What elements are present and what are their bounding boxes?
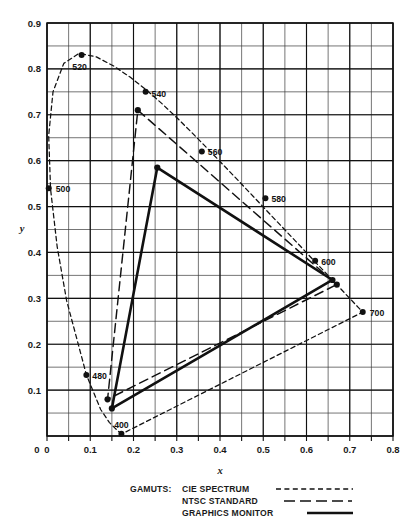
x-tick-label: 0: [44, 444, 49, 455]
wavelength-marker-700: [360, 309, 366, 315]
wavelength-label-600: 600: [321, 257, 336, 267]
x-tick-label: 0.4: [213, 444, 227, 455]
wavelength-label-480: 480: [92, 371, 107, 381]
vertex-marker: [334, 281, 340, 287]
y-tick-label: 0.1: [28, 385, 42, 396]
y-tick-label: 0.3: [28, 293, 41, 304]
y-axis-tick-labels: 00.10.20.30.40.50.60.70.80.9: [28, 18, 42, 456]
wavelength-marker-400: [118, 431, 124, 437]
vertex-marker: [329, 277, 335, 283]
legend-label-cie-spectrum: CIE SPECTRUM: [182, 484, 249, 494]
cie-chromaticity-figure: 520540560580600700500480400 00.10.20.30.…: [0, 0, 415, 530]
y-tick-label: 0.7: [28, 109, 41, 120]
wavelength-label-500: 500: [56, 184, 71, 194]
legend: GAMUTS: CIE SPECTRUM NTSC STANDARD GRAPH…: [130, 484, 353, 518]
x-tick-label: 0.2: [127, 444, 140, 455]
wavelength-marker-540: [143, 89, 149, 95]
legend-label-graphics-monitor: GRAPHICS MONITOR: [182, 508, 274, 518]
x-axis-title: x: [216, 465, 222, 476]
y-tick-label: 0: [34, 444, 39, 455]
x-tick-label: 0.5: [257, 444, 271, 455]
x-tick-label: 0.7: [343, 444, 356, 455]
x-tick-label: 0.3: [170, 444, 183, 455]
wavelength-label-540: 540: [152, 89, 167, 99]
legend-header: GAMUTS:: [130, 484, 172, 494]
wavelength-marker-520: [79, 52, 85, 58]
y-axis-title: y: [18, 223, 25, 234]
x-tick-label: 0.1: [84, 444, 98, 455]
vertex-marker: [135, 107, 141, 113]
y-tick-label: 0.5: [28, 201, 42, 212]
vertex-marker: [109, 405, 115, 411]
x-tick-label: 0.8: [386, 444, 399, 455]
wavelength-marker-560: [199, 148, 205, 154]
y-tick-label: 0.8: [28, 63, 41, 74]
wavelength-label-580: 580: [271, 194, 286, 204]
wavelength-marker-580: [262, 195, 268, 201]
y-tick-label: 0.6: [28, 155, 41, 166]
legend-label-ntsc-standard: NTSC STANDARD: [182, 496, 258, 506]
wavelength-label-520: 520: [72, 62, 87, 72]
y-tick-label: 0.2: [28, 339, 41, 350]
wavelength-label-560: 560: [208, 147, 223, 157]
vertex-marker: [154, 164, 160, 170]
wavelength-marker-480: [83, 372, 89, 378]
x-tick-label: 0.6: [300, 444, 313, 455]
x-axis-tick-labels: 00.10.20.30.40.50.60.70.8: [44, 444, 399, 455]
chromaticity-diagram-svg: 520540560580600700500480400 00.10.20.30.…: [0, 0, 415, 530]
vertex-marker: [104, 396, 110, 402]
series-path-graphics-monitor: [112, 168, 333, 409]
wavelength-label-400: 400: [114, 420, 129, 430]
wavelength-marker-500: [46, 185, 52, 191]
wavelength-label-700: 700: [370, 308, 385, 318]
y-tick-label: 0.4: [28, 247, 42, 258]
wavelength-marker-600: [312, 258, 318, 264]
y-tick-label: 0.9: [28, 18, 41, 29]
